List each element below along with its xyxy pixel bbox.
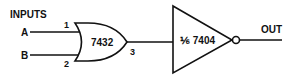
output-label: OUT	[261, 24, 282, 35]
logic-circuit-diagram: INPUTS A B 1 2 3 7432 ⅙ 7404 OUT	[0, 0, 299, 80]
inputs-label: INPUTS	[10, 9, 47, 20]
or-gate-part-label: 7432	[91, 37, 114, 48]
circuit-canvas: INPUTS A B 1 2 3 7432 ⅙ 7404 OUT	[0, 0, 299, 80]
inverter-part-label: ⅙ 7404	[180, 35, 215, 46]
pin-3-label: 3	[130, 47, 135, 57]
pin-1-label: 1	[64, 20, 69, 30]
input-b-label: B	[21, 50, 28, 61]
inverter-bubble-icon	[233, 37, 240, 44]
input-a-label: A	[21, 27, 28, 38]
pin-2-label: 2	[64, 59, 69, 69]
